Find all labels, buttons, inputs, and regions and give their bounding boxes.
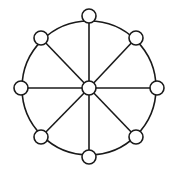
node-top [82, 9, 96, 23]
node-upper-right [129, 31, 143, 45]
node-right [150, 81, 164, 95]
node-left [14, 81, 28, 95]
node-upper-left [34, 31, 48, 45]
node-hub-center [82, 81, 96, 95]
node-bottom [82, 150, 96, 164]
node-lower-right [129, 130, 143, 144]
node-lower-left [34, 130, 48, 144]
wheel-graph-diagram [0, 0, 175, 175]
